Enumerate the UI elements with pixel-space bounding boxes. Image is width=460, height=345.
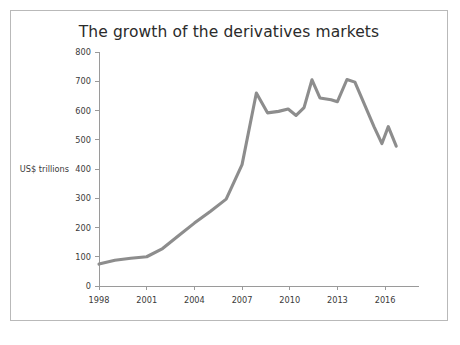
x-tick-label: 2013 xyxy=(327,295,348,305)
x-tick-label: 1998 xyxy=(89,295,110,305)
x-tick-label: 2007 xyxy=(232,295,253,305)
y-tick-label: 300 xyxy=(75,193,91,203)
y-tick-label: 400 xyxy=(75,164,91,174)
y-tick-label: 200 xyxy=(75,223,91,233)
line-chart: 0100200300400500600700800 19982001200420… xyxy=(11,11,449,322)
data-series-line xyxy=(99,80,396,265)
y-tick-label: 600 xyxy=(75,106,91,116)
y-axis-label: US$ trillions xyxy=(20,164,69,174)
y-tick-label: 0 xyxy=(86,281,91,291)
x-tick-label: 2004 xyxy=(184,295,205,305)
y-tick-label: 800 xyxy=(75,47,91,57)
y-tick-label: 700 xyxy=(75,76,91,86)
x-axis-ticks: 1998200120042007201020132016 xyxy=(89,286,396,305)
figure-panel: The growth of the derivatives markets 01… xyxy=(10,10,448,321)
y-tick-label: 100 xyxy=(75,252,91,262)
y-axis-ticks: 0100200300400500600700800 xyxy=(75,47,99,291)
x-tick-label: 2016 xyxy=(375,295,396,305)
y-tick-label: 500 xyxy=(75,135,91,145)
x-tick-label: 2010 xyxy=(279,295,300,305)
x-tick-label: 2001 xyxy=(136,295,157,305)
